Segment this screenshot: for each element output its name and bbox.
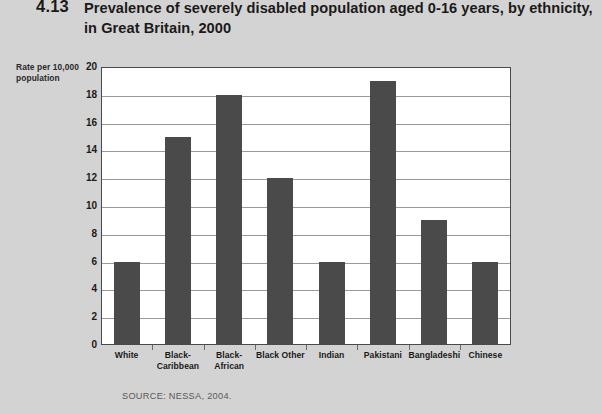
x-axis-tick-label: Bangladeshi <box>409 350 460 361</box>
x-axis-tick-label: Black-African <box>204 350 255 372</box>
y-axis-tick-label: 20 <box>71 61 97 72</box>
x-axis-tick-label: Black-Caribbean <box>152 350 203 372</box>
x-axis-tick-label-line: Bangladeshi <box>409 350 460 361</box>
x-axis-tick-label-line: Pakistani <box>357 350 408 361</box>
x-axis-tick-label-line: Black- <box>204 350 255 361</box>
x-axis-tick-label: Chinese <box>460 350 511 361</box>
bar[interactable] <box>370 81 396 345</box>
source-note: SOURCE: NESSA, 2004. <box>122 391 232 401</box>
bars-group <box>101 67 511 345</box>
y-axis-tick-label: 12 <box>71 172 97 183</box>
x-axis-tick-label-line: Black- <box>152 350 203 361</box>
y-axis-tick-label: 18 <box>71 89 97 100</box>
bar[interactable] <box>421 220 447 345</box>
y-axis-tick-label: 10 <box>71 200 97 211</box>
y-axis-tick-label: 4 <box>71 283 97 294</box>
x-axis-tick-label-line: Chinese <box>460 350 511 361</box>
x-axis-tick-label-line: African <box>204 361 255 372</box>
y-axis-tick-labels: 02468101214161820 <box>69 67 97 345</box>
x-axis-tick-label: Pakistani <box>357 350 408 361</box>
bar[interactable] <box>165 137 191 346</box>
x-axis-tick-label-line: Indian <box>306 350 357 361</box>
bar[interactable] <box>267 178 293 345</box>
y-axis-tick-label: 2 <box>71 311 97 322</box>
x-axis-tick-label: Indian <box>306 350 357 361</box>
y-axis-tick-label: 6 <box>71 256 97 267</box>
bar[interactable] <box>216 95 242 345</box>
bar[interactable] <box>114 262 140 345</box>
y-axis-tick-label: 16 <box>71 117 97 128</box>
x-axis-tick-label: Black Other <box>255 350 306 361</box>
bar[interactable] <box>319 262 345 345</box>
x-axis-tick-label-line: Caribbean <box>152 361 203 372</box>
y-axis-tick-label: 14 <box>71 144 97 155</box>
x-axis-tick-label-line: Black Other <box>255 350 306 361</box>
y-axis-tick-label: 0 <box>71 339 97 350</box>
x-axis-tick-label-line: White <box>101 350 152 361</box>
y-axis-tick-label: 8 <box>71 228 97 239</box>
bar[interactable] <box>472 262 498 345</box>
x-axis-tick-labels: WhiteBlack-CaribbeanBlack-AfricanBlack O… <box>101 350 511 382</box>
bar-chart: Rate per 10,000 population 0246810121416… <box>0 0 602 414</box>
x-axis-tick-label: White <box>101 350 152 361</box>
